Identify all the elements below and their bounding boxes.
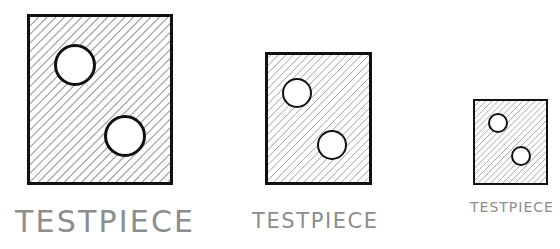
testpiece-scale-diagram: TESTPIECE TESTPIECE TESTPIECE	[0, 0, 560, 249]
specimen-small-plate	[473, 99, 548, 185]
specimen-small-upper-hole	[488, 113, 508, 133]
specimen-medium-lower-hole	[317, 130, 347, 160]
specimen-large-hatching	[30, 17, 170, 182]
specimen-small-hatching	[475, 101, 546, 183]
specimen-large-upper-hole	[54, 44, 96, 86]
specimen-small-label: TESTPIECE	[470, 200, 554, 214]
specimen-medium-label: TESTPIECE	[252, 211, 379, 232]
specimen-medium-plate	[265, 52, 372, 185]
specimen-medium-upper-hole	[282, 78, 312, 108]
specimen-medium-hatching	[268, 55, 369, 182]
specimen-large-lower-hole	[104, 115, 146, 157]
specimen-small-lower-hole	[511, 146, 531, 166]
specimen-large-label: TESTPIECE	[15, 207, 195, 237]
specimen-large-plate	[27, 14, 173, 185]
